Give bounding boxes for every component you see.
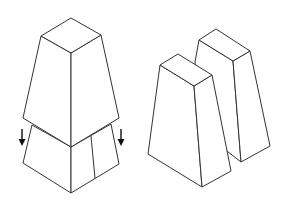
left-down-arrow-icon: [19, 129, 26, 146]
right-down-arrow-icon: [118, 129, 125, 146]
split-blocks-figure: [148, 29, 270, 187]
diagram-canvas: [0, 0, 284, 200]
upper-block-left-face: [23, 36, 71, 147]
diagram-svg: [0, 0, 284, 200]
assembled-tower-figure: [19, 18, 125, 193]
